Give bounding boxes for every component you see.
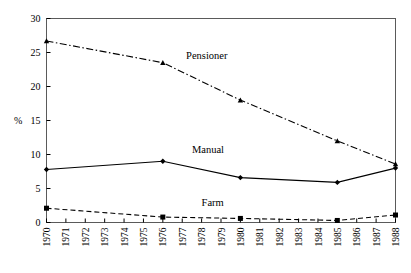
data-point-farm — [335, 218, 340, 223]
x-axis-tick-label: 1978 — [197, 227, 207, 246]
x-axis-tick-label: 1981 — [255, 227, 265, 246]
x-axis-tick-label: 1982 — [275, 227, 285, 246]
x-axis-tick-label: 1976 — [158, 227, 168, 246]
y-axis-tick-label: 30 — [31, 13, 41, 24]
data-point-farm — [44, 206, 49, 211]
y-axis-tick-label: 20 — [31, 81, 41, 92]
y-axis-tick-label: 5 — [36, 183, 41, 194]
x-axis-tick-label: 1977 — [178, 227, 188, 246]
series-label-farm: Farm — [202, 197, 224, 208]
data-point-pensioner — [238, 97, 243, 102]
series-line-manual — [47, 161, 396, 182]
x-axis-tick-label: 1986 — [352, 227, 362, 246]
x-axis-tick-label: 1971 — [61, 227, 71, 246]
y-axis-tick-label: 15 — [31, 115, 41, 126]
y-axis-tick-label: 10 — [31, 149, 41, 160]
data-point-farm — [393, 213, 398, 218]
y-axis-tick-label: 25 — [31, 47, 41, 58]
chart-container: 0510152025301970197119721973197419751976… — [0, 0, 411, 273]
data-point-manual — [238, 175, 243, 180]
x-axis-tick-label: 1975 — [139, 227, 149, 246]
series-label-pensioner: Pensioner — [186, 50, 228, 61]
data-point-farm — [160, 215, 165, 220]
y-axis-tick-label: 0 — [36, 217, 41, 228]
data-point-farm — [238, 216, 243, 221]
x-axis-tick-label: 1983 — [294, 227, 304, 246]
x-axis-tick-label: 1988 — [391, 227, 401, 246]
line-chart: 0510152025301970197119721973197419751976… — [0, 0, 411, 273]
x-axis-tick-label: 1984 — [314, 227, 324, 246]
x-axis-tick-label: 1985 — [333, 227, 343, 246]
x-axis-tick-label: 1980 — [236, 227, 246, 246]
y-axis-title: % — [14, 116, 22, 126]
data-point-pensioner — [160, 60, 165, 65]
x-axis-tick-label: 1979 — [217, 227, 227, 246]
plot-frame — [47, 19, 396, 223]
x-axis-tick-label: 1973 — [100, 227, 110, 246]
data-point-manual — [160, 159, 165, 164]
series-label-manual: Manual — [192, 144, 224, 155]
x-axis-tick-label: 1987 — [372, 227, 382, 246]
x-axis-tick-label: 1970 — [42, 227, 52, 246]
data-point-manual — [335, 180, 340, 185]
x-axis-tick-label: 1972 — [81, 227, 91, 246]
data-point-manual — [44, 167, 49, 172]
x-axis-tick-label: 1974 — [120, 227, 130, 246]
